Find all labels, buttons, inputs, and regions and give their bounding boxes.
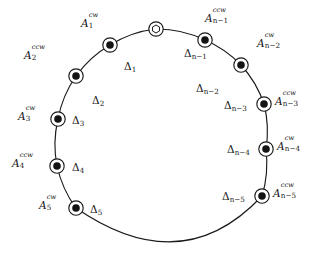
node-outer-ring [149,22,163,36]
gap-label-D3: Δ3 [72,115,84,127]
agent-label-superscript: cw [47,194,57,201]
agent-label-subscript: 2 [32,54,37,61]
gap-label-Dn2: Δn−2 [196,83,219,95]
node-filled-dot [106,41,114,49]
agent-label-scripts: ccwccwn−1 [213,13,228,24]
agent-label-A4: Accwccw4 [12,158,34,169]
agent-label-base: A [277,140,285,152]
agent-label-base: A [273,187,281,199]
agent-node-marker[interactable] [234,58,248,72]
gap-label-subscript: n−2 [204,87,219,96]
node-filled-dot [260,100,268,108]
gap-label-Dn5: Δn−5 [222,191,245,203]
agent-label-subscript: n−3 [283,100,299,107]
agent-label-subscript: 3 [26,115,31,122]
ring-diagram-figure: Acwcw1Accwccw2Acwcw3Accwccw4Acwcw5Accwcc… [0,0,336,270]
agent-label-scripts: ccwccw4 [20,158,35,169]
gap-label-D1: Δ1 [124,61,136,73]
agent-label-superscript: ccw [283,90,296,97]
node-filled-dot [72,72,80,80]
agent-label-superscript: ccw [213,7,226,14]
gap-label-base: Δ [196,82,204,94]
node-filled-dot [72,204,80,212]
gap-label-subscript: n−5 [230,195,245,204]
agent-node-marker[interactable] [51,112,65,126]
agent-label-base: A [275,95,283,107]
agent-node-marker[interactable] [255,189,269,203]
agent-label-scripts: cwcw1 [89,18,99,29]
gap-label-base: Δ [222,190,230,202]
node-filled-dot [53,162,61,170]
agent-node-marker[interactable] [198,33,212,47]
agent-label-subscript: n−2 [265,42,281,49]
agent-label-scripts: cwcw3 [26,111,36,122]
agent-node-marker[interactable] [69,201,83,215]
agent-label-subscript: n−1 [213,17,229,24]
agent-label-superscript: cw [26,105,36,112]
agent-label-A3: Acwcw3 [18,111,36,122]
node-filled-dot [201,36,209,44]
gap-label-base: Δ [224,99,232,111]
agent-label-subscript: n−4 [285,145,301,152]
gap-label-D5: Δ5 [90,204,102,216]
agent-label-An4: An−4cwn−4 [277,141,300,152]
gap-label-Dn1: Δn−1 [184,48,207,60]
gap-label-subscript: 4 [80,166,85,175]
gap-label-base: Δ [72,114,80,126]
agent-label-subscript: 4 [20,162,25,169]
agent-label-base: A [257,37,265,49]
gap-label-base: Δ [90,203,98,215]
agent-label-base: A [81,17,89,29]
agent-label-subscript: 1 [89,22,94,29]
node-filled-dot [54,115,62,123]
gap-label-base: Δ [72,161,80,173]
gap-label-D4: Δ4 [72,162,84,174]
agent-label-base: A [12,157,20,169]
agent-label-A5: Acwcw5 [39,200,57,211]
gap-label-subscript: n−4 [235,148,250,157]
gap-label-base: Δ [227,143,235,155]
gap-label-subscript: 2 [100,99,105,108]
agent-label-superscript: cw [265,32,275,39]
gap-label-base: Δ [124,60,132,72]
node-filled-dot [237,61,245,69]
node-filled-dot [262,145,270,153]
agent-node-marker[interactable] [69,69,83,83]
agent-label-superscript: cw [285,135,295,142]
agent-label-An2: An−2cwn−2 [257,38,280,49]
origin-node-marker[interactable] [149,22,163,36]
gap-label-D2: Δ2 [92,95,104,107]
agent-label-superscript: ccw [281,182,294,189]
agent-label-superscript: ccw [20,152,33,159]
agent-label-scripts: ccwccw2 [32,50,47,61]
gap-label-subscript: 3 [80,119,85,128]
agent-label-superscript: cw [89,12,99,19]
agent-label-A2: Accwccw2 [24,50,46,61]
agent-node-marker[interactable] [259,142,273,156]
agent-node-marker[interactable] [103,38,117,52]
gap-label-subscript: 1 [132,65,137,74]
agent-node-marker[interactable] [50,159,64,173]
agent-label-An1: Accwccwn−1 [205,13,227,24]
gap-label-Dn3: Δn−3 [224,100,247,112]
agent-label-base: A [18,110,26,122]
agent-node-marker[interactable] [257,97,271,111]
agent-label-scripts: ccwccwn−3 [283,96,298,107]
agent-label-An3: Accwccwn−3 [275,96,297,107]
gap-label-subscript: n−3 [232,104,247,113]
node-filled-dot [258,192,266,200]
gap-label-subscript: n−1 [192,52,207,61]
agent-label-base: A [24,49,32,61]
agent-label-scripts: n−4cwn−4 [285,141,301,152]
gap-label-base: Δ [184,47,192,59]
agent-label-scripts: n−2cwn−2 [265,38,281,49]
agent-label-subscript: n−5 [281,192,297,199]
agent-label-base: A [205,12,213,24]
agent-label-scripts: ccwccwn−5 [281,188,296,199]
gap-label-base: Δ [92,94,100,106]
gap-label-subscript: 5 [98,208,103,217]
agent-label-An5: Accwccwn−5 [273,188,295,199]
agent-label-subscript: 5 [47,204,52,211]
gap-label-Dn4: Δn−4 [227,144,250,156]
agent-label-superscript: ccw [32,44,45,51]
